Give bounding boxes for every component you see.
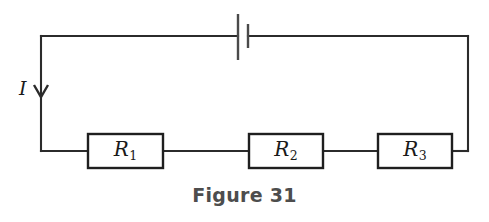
figure-container: I R1 R2 R3 Figure 31 bbox=[0, 0, 489, 222]
current-label: I bbox=[19, 79, 27, 98]
resistor-label-r1-text: R bbox=[114, 137, 129, 161]
resistor-label-r2-subscript: 2 bbox=[289, 148, 297, 163]
figure-caption: Figure 31 bbox=[0, 184, 489, 206]
resistor-label-r2: R2 bbox=[274, 139, 298, 163]
resistor-label-r1: R1 bbox=[114, 139, 138, 163]
resistor-label-r3-subscript: 3 bbox=[418, 148, 426, 163]
resistor-label-r1-subscript: 1 bbox=[129, 148, 137, 163]
resistor-label-r3-text: R bbox=[403, 137, 418, 161]
resistor-label-r2-text: R bbox=[274, 137, 289, 161]
resistor-label-r3: R3 bbox=[403, 139, 427, 163]
